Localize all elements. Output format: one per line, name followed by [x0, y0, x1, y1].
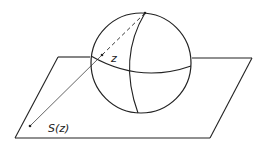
point-s-of-z — [29, 125, 32, 128]
north-pole-point — [144, 12, 147, 15]
label-s-of-z: S(z) — [48, 122, 69, 135]
diagram-canvas: z S(z) — [0, 0, 269, 151]
point-z — [101, 54, 104, 57]
label-z: z — [110, 52, 117, 65]
stereographic-projection-diagram: z S(z) — [0, 0, 269, 151]
